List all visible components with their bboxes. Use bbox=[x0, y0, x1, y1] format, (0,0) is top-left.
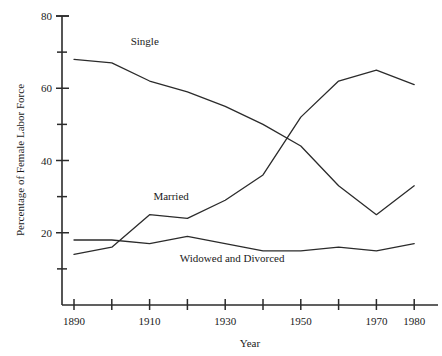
x-tick-label: 1930 bbox=[214, 315, 237, 327]
series-line-married bbox=[74, 70, 414, 254]
series-line-widowed-and-divorced bbox=[74, 236, 414, 250]
chart-container: 20406080 189019101930195019701980 Single… bbox=[0, 0, 442, 356]
series-label-married: Married bbox=[153, 190, 189, 202]
line-chart: 20406080 189019101930195019701980 Single… bbox=[0, 0, 442, 356]
y-tick-label: 80 bbox=[41, 10, 53, 22]
x-axis-tick-labels: 189019101930195019701980 bbox=[63, 315, 426, 327]
x-tick-label: 1980 bbox=[403, 315, 426, 327]
series-line-single bbox=[74, 59, 414, 214]
y-tick-label: 20 bbox=[41, 227, 53, 239]
y-axis-title: Percentage of Female Labor Force bbox=[14, 84, 26, 236]
series-label-widowed-and-divorced: Widowed and Divorced bbox=[180, 252, 285, 264]
series-label-single: Single bbox=[131, 35, 159, 47]
series-inline-labels: SingleMarriedWidowed and Divorced bbox=[131, 35, 285, 264]
y-tick-label: 60 bbox=[41, 82, 53, 94]
x-axis-title: Year bbox=[240, 337, 261, 349]
series-lines bbox=[74, 59, 414, 254]
y-tick-label: 40 bbox=[41, 155, 53, 167]
x-tick-label: 1970 bbox=[365, 315, 388, 327]
y-axis-tick-labels: 20406080 bbox=[41, 10, 53, 239]
x-tick-label: 1910 bbox=[139, 315, 162, 327]
x-tick-label: 1890 bbox=[63, 315, 86, 327]
x-tick-label: 1950 bbox=[290, 315, 313, 327]
